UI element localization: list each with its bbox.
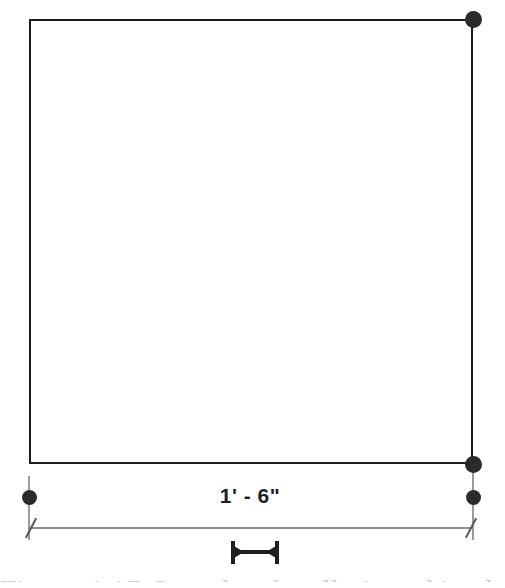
figure-caption: Figure 4-17 Completed wall viewed in ele…	[0, 573, 505, 582]
rectangle-shape[interactable]	[29, 19, 473, 464]
scale-bar[interactable]	[228, 540, 282, 569]
dimension-line[interactable]	[29, 527, 473, 529]
scale-bar-icon	[228, 540, 282, 565]
grip-bottom-right[interactable]	[465, 456, 482, 473]
extension-line-right	[472, 470, 474, 540]
grip-extension-left[interactable]	[22, 490, 37, 505]
dimension-label[interactable]: 1' - 6"	[220, 484, 280, 508]
drawing-canvas: 1' - 6" Figure 4-17 Completed wall viewe…	[0, 0, 505, 588]
grip-top-right[interactable]	[465, 11, 482, 28]
grip-extension-right[interactable]	[466, 490, 481, 505]
